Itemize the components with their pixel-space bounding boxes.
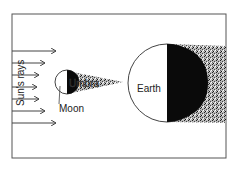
sun-rays-label: Sun's rays — [15, 60, 26, 106]
earth-label: Earth — [137, 83, 161, 94]
lunar-eclipse-diagram: Sun's rays Umbra Moon Earth — [0, 0, 234, 170]
umbra-label: Umbra — [69, 78, 99, 89]
moon-label: Moon — [59, 103, 84, 114]
